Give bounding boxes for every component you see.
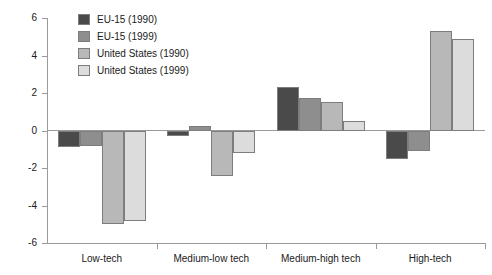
y-axis-tick-label: -6 bbox=[0, 238, 37, 248]
legend-label: United States (1990) bbox=[97, 48, 189, 59]
y-axis-tick-label: -2 bbox=[0, 163, 37, 173]
x-axis-category-label: Low-tech bbox=[47, 253, 157, 264]
legend-item: EU-15 (1990) bbox=[78, 11, 189, 27]
y-axis-tick-label: 0 bbox=[0, 126, 37, 136]
y-axis-tick-label: 6 bbox=[0, 13, 37, 23]
x-axis-category-label: Medium-low tech bbox=[157, 253, 267, 264]
x-axis-separator bbox=[266, 243, 267, 249]
legend-label: United States (1999) bbox=[97, 65, 189, 76]
legend-swatch-icon bbox=[78, 48, 90, 59]
bar bbox=[452, 39, 474, 131]
legend-item: EU-15 (1999) bbox=[78, 28, 189, 44]
legend-label: EU-15 (1999) bbox=[97, 31, 157, 42]
bar-chart: 6420-2-4-6 Low-techMedium-low techMedium… bbox=[0, 0, 492, 275]
x-axis-separator bbox=[485, 243, 486, 249]
bar bbox=[386, 131, 408, 159]
bar bbox=[233, 131, 255, 154]
bar bbox=[58, 131, 80, 148]
chart-legend: EU-15 (1990)EU-15 (1999)United States (1… bbox=[78, 11, 189, 79]
bar bbox=[277, 87, 299, 130]
legend-item: United States (1999) bbox=[78, 62, 189, 78]
bar bbox=[343, 121, 365, 130]
y-axis-tick-label: -4 bbox=[0, 201, 37, 211]
bar bbox=[102, 131, 124, 225]
x-axis-category-label: Medium-high tech bbox=[266, 253, 376, 264]
bar bbox=[299, 98, 321, 131]
legend-swatch-icon bbox=[78, 14, 90, 25]
legend-label: EU-15 (1990) bbox=[97, 14, 157, 25]
y-axis-tick-label: 2 bbox=[0, 88, 37, 98]
y-axis-tick-label: 4 bbox=[0, 51, 37, 61]
bar bbox=[211, 131, 233, 176]
bar bbox=[408, 131, 430, 152]
x-axis-category-label: High-tech bbox=[376, 253, 486, 264]
legend-swatch-icon bbox=[78, 65, 90, 76]
legend-swatch-icon bbox=[78, 31, 90, 42]
x-axis-separator bbox=[157, 243, 158, 249]
x-axis-separator bbox=[376, 243, 377, 249]
bar bbox=[167, 131, 189, 137]
legend-item: United States (1990) bbox=[78, 45, 189, 61]
bar bbox=[321, 102, 343, 130]
bar bbox=[80, 131, 102, 147]
bar bbox=[189, 126, 211, 131]
bar bbox=[430, 31, 452, 130]
bar bbox=[124, 131, 146, 222]
